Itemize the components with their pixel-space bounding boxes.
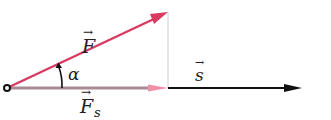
- displacement-arrowhead: [284, 84, 302, 92]
- force-diagram: F → α F s → s →: [0, 0, 331, 120]
- origin-point: [4, 85, 10, 91]
- force-component-arrowhead: [148, 85, 168, 92]
- force-label-arrow: →: [83, 25, 93, 39]
- force-component-subscript: s: [94, 105, 101, 120]
- force-arrowhead: [150, 12, 168, 24]
- angle-label: α: [68, 64, 80, 84]
- displacement-label-arrow: →: [195, 56, 204, 69]
- force-component-label-arrow: →: [81, 85, 91, 99]
- angle-arc: [59, 66, 63, 88]
